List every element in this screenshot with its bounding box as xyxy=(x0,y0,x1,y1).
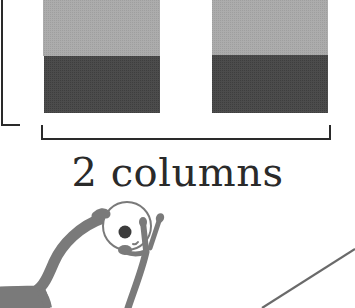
peeking-figure-icon xyxy=(0,202,166,308)
column-2 xyxy=(212,0,328,113)
bottom-bracket xyxy=(42,125,330,139)
column-2-bottom-segment xyxy=(212,55,328,113)
column-1-top-segment xyxy=(43,0,160,56)
diagonal-line xyxy=(262,249,355,308)
column-2-top-segment xyxy=(212,0,328,55)
left-bracket xyxy=(2,0,20,125)
column-1-bottom-segment xyxy=(44,56,160,113)
column-1 xyxy=(43,0,160,113)
eye xyxy=(119,226,132,239)
columns-label: 2 columns xyxy=(0,150,355,194)
